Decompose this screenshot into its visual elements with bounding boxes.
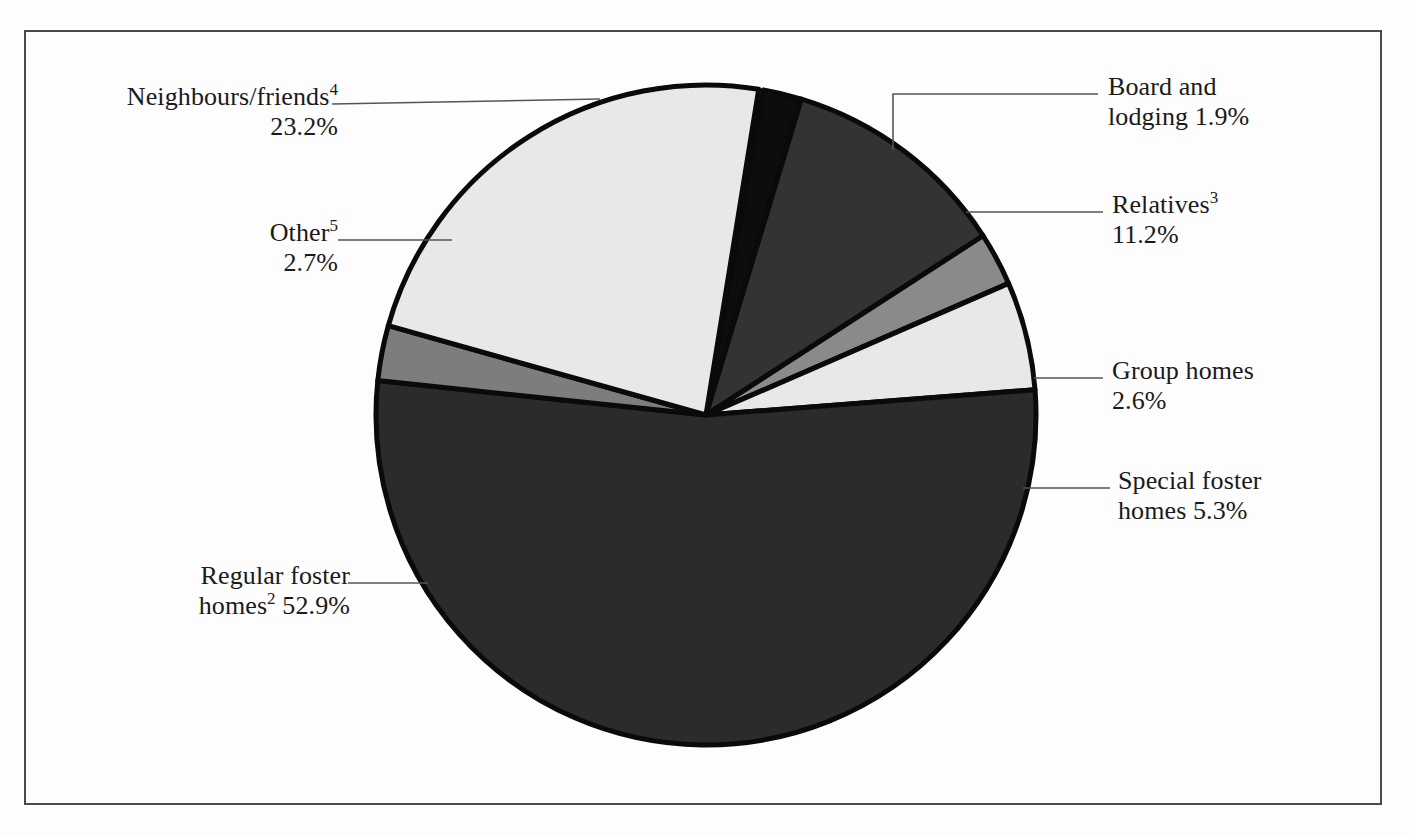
slice-label-group-value: 2.6%	[1112, 386, 1254, 416]
slice-label-regular-name-line1: Regular foster	[201, 561, 350, 590]
slice-label-neighbours-footnote: 4	[329, 80, 338, 99]
pie-slice	[376, 381, 1036, 745]
slice-label-relatives: Relatives3 11.2%	[1112, 190, 1218, 250]
slice-label-board-name-line1: Board and	[1108, 72, 1216, 101]
callout-leader-line	[332, 99, 600, 104]
slice-label-special-foster-homes: Special foster homes 5.3%	[1118, 466, 1262, 526]
slice-label-neighbours-value: 23.2%	[38, 112, 338, 142]
chart-canvas: Neighbours/friends4 23.2% Other5 2.7% Re…	[0, 0, 1415, 837]
pie-slices-group	[376, 85, 1036, 745]
slice-label-other-footnote: 5	[329, 216, 338, 235]
slice-label-group-name: Group homes	[1112, 356, 1254, 385]
slice-label-regular-footnote: 2	[267, 590, 276, 609]
slice-label-board-value: 1.9%	[1195, 102, 1250, 131]
slice-label-special-line2: homes 5.3%	[1118, 496, 1262, 526]
slice-label-other-name: Other	[270, 218, 330, 247]
slice-label-relatives-value: 11.2%	[1112, 220, 1218, 250]
slice-label-board-and-lodging: Board and lodging 1.9%	[1108, 72, 1249, 132]
slice-label-board-line2: lodging 1.9%	[1108, 102, 1249, 132]
slice-label-other: Other5 2.7%	[38, 218, 338, 278]
slice-label-special-value: 5.3%	[1193, 496, 1248, 525]
slice-label-relatives-footnote: 3	[1210, 188, 1219, 207]
slice-label-regular-name-line2: homes	[199, 591, 267, 620]
slice-label-special-name-line1: Special foster	[1118, 466, 1262, 495]
callout-leader-line	[893, 94, 1098, 150]
slice-label-board-name-line2: lodging	[1108, 102, 1188, 131]
slice-label-relatives-name: Relatives	[1112, 190, 1210, 219]
slice-label-regular-value: 52.9%	[282, 591, 350, 620]
slice-label-regular-foster-homes: Regular foster homes2 52.9%	[40, 561, 350, 621]
slice-label-neighbours-name: Neighbours/friends	[127, 82, 330, 111]
slice-label-regular-line2: homes2 52.9%	[40, 591, 350, 621]
slice-label-other-value: 2.7%	[38, 248, 338, 278]
slice-label-special-name-line2: homes	[1118, 496, 1186, 525]
slice-label-group-homes: Group homes 2.6%	[1112, 356, 1254, 416]
slice-label-neighbours-friends: Neighbours/friends4 23.2%	[38, 82, 338, 142]
